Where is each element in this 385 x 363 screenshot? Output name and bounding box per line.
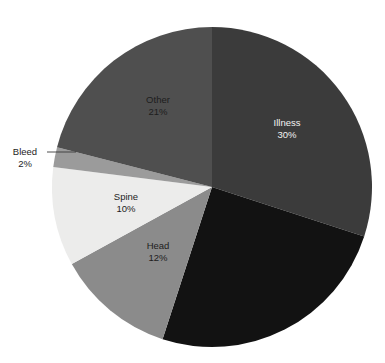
slice-label-name-head: Head <box>147 240 170 251</box>
slice-label-name-illness: Illness <box>274 117 301 128</box>
slice-label-percent-other: 21% <box>148 106 168 117</box>
pie-slices-group <box>52 27 372 347</box>
pie-chart: Illness30%Head12%Spine10%Bleed2%Other21% <box>0 0 385 363</box>
slice-label-percent-illness: 30% <box>277 129 297 140</box>
slice-label-other: Other21% <box>146 94 170 117</box>
slice-label-percent-spine: 10% <box>116 203 136 214</box>
slice-label-name-spine: Spine <box>114 191 138 202</box>
pie-chart-container: Illness30%Head12%Spine10%Bleed2%Other21% <box>0 0 385 363</box>
slice-label-bleed: Bleed2% <box>13 146 37 169</box>
slice-label-spine: Spine10% <box>114 191 138 214</box>
slice-label-name-other: Other <box>146 94 170 105</box>
slice-label-name-bleed: Bleed <box>13 146 37 157</box>
slice-label-head: Head12% <box>147 240 170 263</box>
slice-label-percent-bleed: 2% <box>18 158 32 169</box>
slice-label-percent-head: 12% <box>148 252 168 263</box>
